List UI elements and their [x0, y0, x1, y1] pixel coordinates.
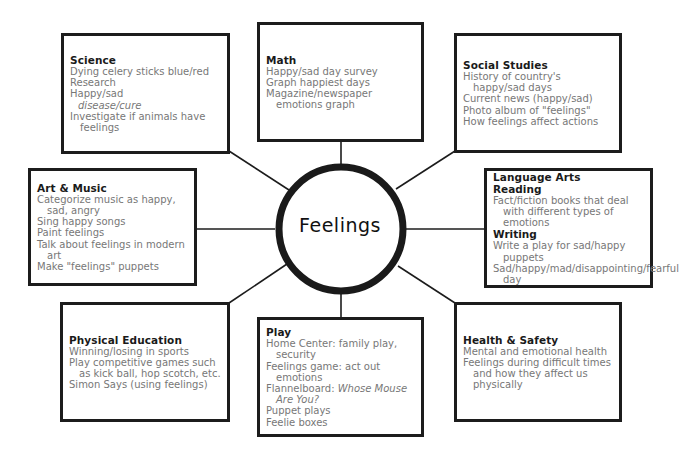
box-science: Science Dying celery sticks blue/red Res… — [61, 33, 230, 154]
box-title: Science — [70, 54, 221, 66]
section-label-writing: Writing — [493, 228, 644, 240]
list-item: Graph happiest days — [266, 77, 415, 88]
box-title: Art & Music — [37, 182, 188, 194]
center-label: Feelings — [275, 214, 405, 236]
list-item: Photo album of "feelings" — [463, 105, 613, 116]
list-item: Winning/losing in sports — [69, 346, 221, 357]
list-item: Investigate if animals have feelings — [70, 111, 221, 133]
box-art-music: Art & Music Categorize music as happy, s… — [28, 168, 197, 286]
list-item: Magazine/newspaper emotions graph — [266, 88, 415, 110]
list-item: Research — [70, 77, 221, 88]
list-item: Current news (happy/sad) — [463, 93, 613, 104]
list-item: Talk about feelings in modern art — [37, 239, 188, 261]
list-item: Play competitive games such as kick ball… — [69, 357, 221, 379]
list-item: Feelings during difficult times and how … — [463, 357, 613, 391]
box-title: Health & Safety — [463, 334, 613, 346]
list-item: Happy/sad day survey — [266, 66, 415, 77]
list-item: Simon Says (using feelings) — [69, 379, 221, 390]
list-item: Happy/sad — [70, 88, 221, 99]
box-title: Physical Education — [69, 334, 221, 346]
list-item: Flannelboard: Whose Mouse Are You? — [266, 383, 415, 405]
list-item: Mental and emotional health — [463, 346, 613, 357]
list-item: Feelings game: act out emotions — [266, 361, 415, 383]
list-item: Make "feelings" puppets — [37, 261, 188, 272]
list-item: Puppet plays — [266, 405, 415, 416]
list-item: Home Center: family play, security — [266, 338, 415, 360]
list-item: How feelings affect actions — [463, 116, 613, 127]
list-item: Fact/fiction books that deal with differ… — [493, 195, 644, 229]
list-item: Sing happy songs — [37, 216, 188, 227]
box-social-studies: Social Studies History of country's happ… — [454, 33, 622, 153]
flannel-prefix: Flannelboard: — [266, 383, 338, 394]
list-item: disease/cure — [70, 100, 221, 111]
box-title: Math — [266, 54, 415, 66]
box-physical-education: Physical Education Winning/losing in spo… — [60, 302, 230, 422]
box-play: Play Home Center: family play, security … — [257, 317, 424, 437]
list-item: Feelie boxes — [266, 417, 415, 428]
box-math: Math Happy/sad day survey Graph happiest… — [257, 22, 424, 142]
box-language-arts: Language Arts Reading Fact/fiction books… — [484, 168, 653, 288]
list-item: Sad/happy/mad/disappointing/fearful day — [493, 263, 644, 285]
section-label-reading: Reading — [493, 183, 644, 195]
list-item: Paint feelings — [37, 227, 188, 238]
box-title: Social Studies — [463, 59, 613, 71]
box-health-safety: Health & Safety Mental and emotional hea… — [454, 302, 622, 422]
box-title: Language Arts — [493, 171, 644, 183]
box-title: Play — [266, 326, 415, 338]
list-item: Write a play for sad/happy puppets — [493, 240, 644, 262]
list-item: History of country's happy/sad days — [463, 71, 613, 93]
list-item: Dying celery sticks blue/red — [70, 66, 221, 77]
list-item: Categorize music as happy, sad, angry — [37, 194, 188, 216]
